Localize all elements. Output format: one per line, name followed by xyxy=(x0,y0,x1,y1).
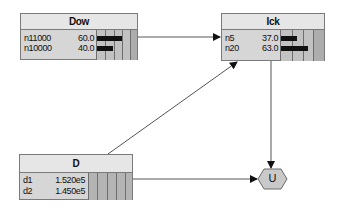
state-row[interactable]: n11000 60.0 xyxy=(21,33,137,43)
state-row[interactable]: d2 1.450e5 xyxy=(20,186,132,197)
state-bar xyxy=(281,46,308,51)
state-label: n20 xyxy=(225,43,239,53)
state-value: 40.0 xyxy=(78,43,94,53)
state-bar xyxy=(97,36,122,41)
node-dow-title: Dow xyxy=(21,14,137,30)
state-label: n5 xyxy=(225,33,234,43)
node-u[interactable]: U xyxy=(257,168,288,190)
node-dow[interactable]: Dow n11000 60.0 n10000 40.0 xyxy=(20,13,138,60)
node-d-title: D xyxy=(20,155,132,173)
state-label: d1 xyxy=(23,175,32,186)
state-label: n11000 xyxy=(24,33,51,43)
state-value: 60.0 xyxy=(78,33,94,43)
state-bar xyxy=(281,36,297,41)
state-value: 1.450e5 xyxy=(55,186,85,197)
node-ick[interactable]: Ick n5 37.0 n20 63.0 xyxy=(221,13,325,61)
state-row[interactable]: n20 63.0 xyxy=(222,43,324,53)
state-bar xyxy=(97,46,113,51)
node-ick-title: Ick xyxy=(222,14,324,30)
state-row[interactable]: n5 37.0 xyxy=(222,33,324,43)
state-value: 63.0 xyxy=(262,43,278,53)
node-d[interactable]: D d1 1.520e5 d2 1.450e5 xyxy=(19,154,133,200)
edge-d-ick xyxy=(108,62,237,154)
state-row[interactable]: n10000 40.0 xyxy=(21,43,137,53)
node-u-title: U xyxy=(257,172,288,184)
state-label: d2 xyxy=(23,186,32,197)
state-value: 1.520e5 xyxy=(55,175,85,186)
state-row[interactable]: d1 1.520e5 xyxy=(20,175,132,186)
state-value: 37.0 xyxy=(262,33,278,43)
state-label: n10000 xyxy=(24,43,52,53)
